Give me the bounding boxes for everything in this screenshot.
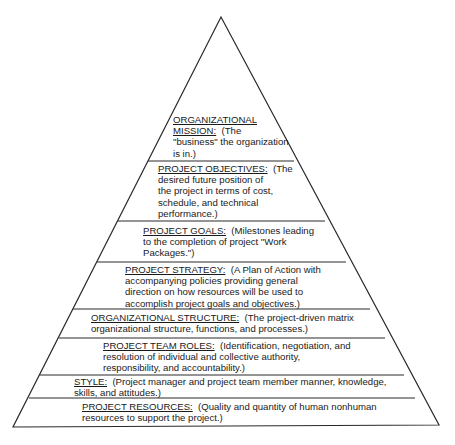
style-text: skills, and attitudes.) [74, 387, 387, 398]
goals-text: to the completion of project "Work [143, 236, 314, 247]
layer-resources: PROJECT RESOURCES: (Quality and quantity… [82, 401, 377, 423]
layer-objectives: PROJECT OBJECTIVES: (The desired future … [158, 163, 293, 219]
objectives-text: the project in terms of cost, [158, 185, 293, 196]
layer-goals: PROJECT GOALS: (Milestones leading to th… [143, 225, 314, 259]
mission-text: (The [216, 125, 241, 136]
team-roles-text: resolution of individual and collective … [103, 351, 351, 362]
mission-text: is in.) [173, 148, 289, 159]
goals-text: (Milestones leading [226, 225, 314, 236]
mission-heading-2: MISSION: [173, 125, 216, 136]
layer-mission: ORGANIZATIONAL MISSION: (The "business" … [173, 114, 289, 159]
structure-text: (The project-driven matrix [239, 312, 354, 323]
structure-heading: ORGANIZATIONAL STRUCTURE: [91, 312, 239, 323]
strategy-heading: PROJECT STRATEGY: [125, 264, 225, 275]
mission-heading-1: ORGANIZATIONAL [173, 114, 257, 125]
layer-strategy: PROJECT STRATEGY: (A Plan of Action with… [125, 264, 321, 309]
style-heading: STYLE: [74, 376, 107, 387]
resources-heading: PROJECT RESOURCES: [82, 401, 193, 412]
structure-text: organizational structure, functions, and… [91, 323, 354, 334]
objectives-text: performance.) [158, 208, 293, 219]
style-text: (Project manager and project team member… [107, 376, 386, 387]
team-roles-text: (Identification, negotiation, and [215, 340, 351, 351]
strategy-text: accomplish project goals and objectives.… [125, 298, 321, 309]
objectives-text: desired future position of [158, 174, 293, 185]
strategy-text: (A Plan of Action with [225, 264, 320, 275]
layer-structure: ORGANIZATIONAL STRUCTURE: (The project-d… [91, 312, 354, 334]
objectives-text: (The [268, 163, 293, 174]
team-roles-text: responsibility, and accountability.) [103, 362, 351, 373]
goals-heading: PROJECT GOALS: [143, 225, 226, 236]
resources-text: (Quality and quantity of human nonhuman [193, 401, 377, 412]
layer-team-roles: PROJECT TEAM ROLES: (Identification, neg… [103, 340, 351, 374]
mission-text: "business" the organization [173, 136, 289, 147]
goals-text: Packages.") [143, 247, 314, 258]
layer-style: STYLE: (Project manager and project team… [74, 376, 387, 398]
objectives-heading: PROJECT OBJECTIVES: [158, 163, 268, 174]
resources-text: resources to support the project.) [82, 412, 377, 423]
strategy-text: direction on how resources will be used … [125, 286, 321, 297]
strategy-text: accompanying policies providing general [125, 275, 321, 286]
team-roles-heading: PROJECT TEAM ROLES: [103, 340, 215, 351]
objectives-text: schedule, and technical [158, 197, 293, 208]
